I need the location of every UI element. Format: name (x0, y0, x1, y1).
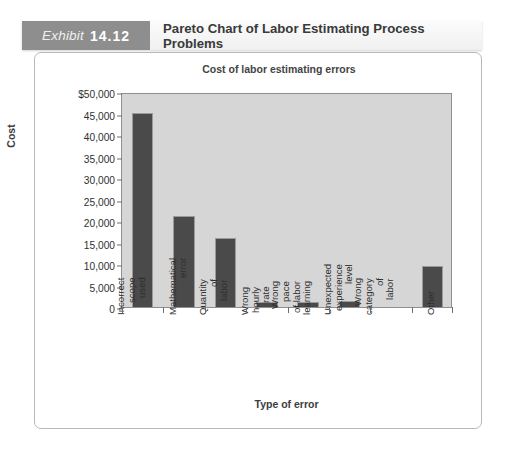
y-axis-tick-label: 5,000 (90, 282, 116, 293)
x-axis-tick (205, 307, 206, 313)
chart-title: Cost of labor estimating errors (35, 63, 483, 75)
y-axis-tick (117, 266, 122, 267)
x-axis-title: Type of error (121, 398, 452, 410)
y-axis-tick (117, 137, 122, 138)
x-axis-tick (329, 307, 330, 313)
x-axis-category-label: Wrong category of labor (353, 278, 396, 315)
x-axis-category-label: Mathematical error (168, 258, 189, 315)
plot-area: $50,00045,00040,00035,00030,00025,00020,… (121, 93, 452, 308)
y-axis-tick-label: 10,000 (84, 261, 115, 272)
exhibit-figure: Exhibit 14.12 Pareto Chart of Labor Esti… (0, 0, 520, 455)
y-axis-tick-label: $50,000 (78, 89, 115, 100)
y-axis-tick (117, 94, 122, 95)
y-axis-tick-label: 35,000 (84, 153, 115, 164)
exhibit-badge: Exhibit 14.12 (22, 21, 150, 50)
exhibit-card: Cost of labor estimating errors Cost $50… (34, 52, 482, 429)
y-axis-tick (117, 201, 122, 202)
exhibit-number: 14.12 (90, 28, 130, 44)
x-axis-category-label: Unexpected experience level (322, 264, 354, 315)
x-axis-category-label: Wrong hourly rate (240, 287, 272, 315)
y-axis-tick-label: 25,000 (84, 196, 115, 207)
y-axis-tick (117, 180, 122, 181)
y-axis-tick (117, 158, 122, 159)
x-axis-tick (412, 307, 413, 313)
y-axis-tick-label: 20,000 (84, 218, 115, 229)
x-axis-category-label: Other (427, 291, 438, 315)
x-axis-category-label: Quantity of labor (198, 279, 230, 315)
y-axis-tick-label: 40,000 (84, 132, 115, 143)
y-axis-tick-label: 30,000 (84, 175, 115, 186)
plot-inner: $50,00045,00040,00035,00030,00025,00020,… (122, 94, 451, 307)
exhibit-header: Exhibit 14.12 Pareto Chart of Labor Esti… (22, 21, 482, 50)
x-axis-category-label: Wrong pace of labor learning (270, 281, 313, 315)
y-axis-tick (117, 223, 122, 224)
exhibit-title: Pareto Chart of Labor Estimating Process… (150, 21, 482, 50)
x-axis-category-label: Incorrect scope used (115, 278, 147, 315)
chart: Cost of labor estimating errors Cost $50… (35, 53, 483, 430)
y-axis-tick (117, 115, 122, 116)
y-axis-title: Cost (5, 96, 17, 176)
x-axis-tick (163, 307, 164, 313)
y-axis-tick-label: 45,000 (84, 110, 115, 121)
x-axis-tick (370, 307, 371, 313)
x-axis-tick (246, 307, 247, 313)
x-axis-tick (122, 307, 123, 313)
y-axis-tick (117, 244, 122, 245)
exhibit-label: Exhibit (42, 28, 84, 43)
x-axis-tick (288, 307, 289, 313)
y-axis-tick-label: 15,000 (84, 239, 115, 250)
x-axis-tick (452, 307, 453, 313)
